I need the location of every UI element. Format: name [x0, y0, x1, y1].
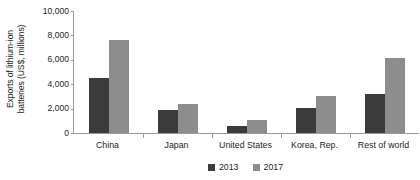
x-axis-category-label: Rest of world	[349, 139, 418, 153]
bar	[178, 104, 198, 133]
bar	[296, 108, 316, 133]
bar-group	[143, 11, 212, 133]
bar	[365, 94, 385, 133]
bar	[227, 126, 247, 133]
x-axis-category-label: Korea, Rep.	[280, 139, 349, 153]
legend-label: 2017	[264, 163, 284, 172]
plot-area: 02,0004,0006,0008,00010,000	[73, 11, 419, 134]
bar-group	[74, 11, 143, 133]
x-axis-category-label: China	[73, 139, 142, 153]
bar-group	[212, 11, 281, 133]
bar-groups	[74, 11, 419, 133]
legend-item: 2017	[253, 163, 284, 172]
bar-group	[350, 11, 419, 133]
chart-legend: 20132017	[73, 160, 418, 174]
bar	[247, 120, 267, 133]
legend-color-swatch	[253, 164, 260, 171]
bar	[316, 96, 336, 133]
bar	[385, 58, 405, 133]
bar	[158, 110, 178, 133]
y-axis-tick-mark	[71, 133, 74, 134]
bar	[109, 40, 129, 133]
y-axis-title: Exports of lithium-ion batteries (US$, m…	[1, 1, 31, 137]
x-axis-category-labels: ChinaJapanUnited StatesKorea, Rep.Rest o…	[73, 139, 418, 153]
bar	[89, 78, 109, 134]
legend-label: 2013	[219, 163, 239, 172]
y-axis-tick-label: 10,000	[43, 7, 74, 16]
legend-item: 2013	[208, 163, 239, 172]
x-axis-category-label: United States	[211, 139, 280, 153]
x-axis-category-label: Japan	[142, 139, 211, 153]
bar-chart-figure: Exports of lithium-ion batteries (US$, m…	[0, 0, 420, 180]
legend-color-swatch	[208, 164, 215, 171]
bar-group	[281, 11, 350, 133]
